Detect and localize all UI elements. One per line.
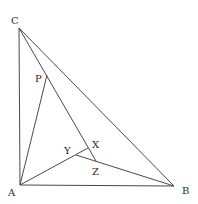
label-point-y: Y	[63, 145, 71, 156]
label-point-p: P	[35, 73, 42, 84]
label-point-z: Z	[92, 166, 99, 177]
geometry-diagram: C P X Y Z A B	[0, 0, 198, 204]
segment-ax	[20, 148, 88, 185]
side-cb	[19, 28, 174, 186]
segments	[19, 28, 174, 186]
side-ab	[20, 185, 174, 186]
label-point-b: B	[182, 185, 189, 196]
label-point-x: X	[92, 139, 100, 150]
label-point-c: C	[11, 15, 19, 26]
segment-ap	[20, 75, 47, 185]
point-labels: C P X Y Z A B	[7, 15, 189, 198]
label-point-a: A	[7, 187, 16, 198]
side-ac	[19, 28, 20, 185]
